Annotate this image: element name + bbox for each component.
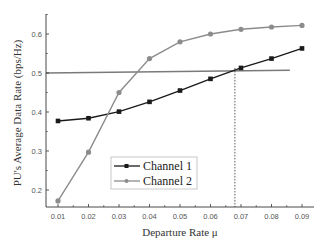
data-point-circle-icon [269, 24, 274, 29]
y-tick-label: 0.4 [32, 108, 42, 117]
data-point-square-icon [178, 88, 183, 93]
y-tick-label: 0.2 [32, 186, 42, 195]
x-axis-title: Departure Rate μ [142, 226, 218, 238]
y-tick-label: 0.6 [32, 30, 42, 39]
data-point-square-icon [86, 116, 91, 121]
x-tick-label: 0.01 [51, 212, 66, 221]
y-tick-label: 0.5 [32, 69, 42, 78]
legend-marker-circle-icon [125, 179, 129, 183]
data-point-square-icon [239, 66, 244, 71]
data-point-circle-icon [147, 56, 152, 61]
x-tick-label: 0.09 [295, 212, 310, 221]
data-point-square-icon [300, 46, 305, 51]
x-tick-label: 0.08 [264, 212, 279, 221]
data-point-circle-icon [116, 90, 121, 95]
x-tick-label: 0.07 [234, 212, 249, 221]
x-tick-label: 0.02 [81, 212, 96, 221]
data-point-circle-icon [208, 31, 213, 36]
x-tick-label: 0.03 [112, 212, 127, 221]
data-point-square-icon [269, 56, 274, 61]
data-point-circle-icon [55, 198, 60, 203]
data-point-square-icon [208, 77, 213, 82]
y-axis-title: PU's Average Data Rate (bps/Hz) [11, 39, 24, 186]
x-tick-label: 0.06 [203, 212, 218, 221]
data-point-circle-icon [177, 39, 182, 44]
legend-marker-square-icon [125, 164, 129, 168]
y-tick-label: 0.3 [32, 147, 42, 156]
legend: Channel 1 Channel 2 [111, 157, 197, 189]
data-point-square-icon [56, 119, 61, 124]
data-point-circle-icon [299, 23, 304, 28]
threshold-line [46, 70, 290, 73]
legend-label-channel-1: Channel 1 [143, 159, 192, 173]
x-tick-label: 0.05 [173, 212, 188, 221]
series-line-1 [58, 48, 302, 121]
x-tick-label: 0.04 [142, 212, 157, 221]
data-point-circle-icon [86, 150, 91, 155]
data-point-circle-icon [238, 27, 243, 32]
tick-labels: 0.20.30.40.50.60.010.020.030.040.050.060… [32, 30, 310, 222]
data-point-square-icon [117, 109, 122, 114]
data-point-square-icon [147, 100, 152, 105]
line-chart: 0.20.30.40.50.60.010.020.030.040.050.060… [0, 0, 327, 249]
legend-label-channel-2: Channel 2 [143, 174, 192, 188]
